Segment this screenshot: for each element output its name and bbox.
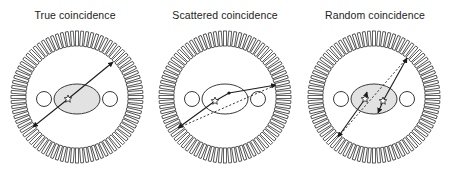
detector-block: [373, 148, 376, 163]
detector-block: [11, 90, 26, 94]
detector-block: [377, 148, 381, 163]
detector-block: [224, 148, 227, 163]
detector-block: [11, 96, 26, 99]
detector-block: [159, 90, 174, 94]
detector-block: [308, 90, 323, 94]
detector-block: [76, 31, 79, 46]
detector-block: [159, 100, 174, 104]
patient-body: [54, 84, 100, 114]
detector-block: [218, 31, 222, 46]
detector-block: [128, 96, 143, 99]
detector-block: [276, 90, 291, 94]
patient-arm-left: [37, 92, 52, 107]
detector-block: [276, 100, 291, 104]
patient-body: [202, 84, 248, 114]
detector-block: [159, 96, 174, 99]
detector-block: [11, 100, 26, 104]
scatter-point: [227, 91, 230, 94]
detector-block: [276, 96, 291, 99]
detector-block: [128, 100, 143, 104]
detector-block: [373, 31, 376, 46]
detector-block: [308, 100, 323, 104]
detector-block: [367, 148, 371, 163]
detector-block: [308, 96, 323, 99]
patient-arm-left: [185, 92, 200, 107]
detector-block: [76, 148, 79, 163]
pet-coincidence-diagram: [0, 0, 450, 183]
detector-block: [228, 148, 232, 163]
patient-arm-right: [103, 92, 118, 107]
detector-block: [425, 90, 440, 94]
detector-block: [218, 148, 222, 163]
detector-block: [377, 31, 381, 46]
detector-block: [70, 148, 74, 163]
detector-block: [70, 31, 74, 46]
patient-arm-right: [251, 92, 266, 107]
detector-block: [128, 90, 143, 94]
detector-block: [80, 31, 84, 46]
detector-block: [425, 100, 440, 104]
detector-block: [425, 96, 440, 99]
detector-block: [224, 31, 227, 46]
detector-block: [367, 31, 371, 46]
patient-arm-right: [400, 92, 415, 107]
detector-block: [228, 31, 232, 46]
patient-arm-left: [334, 92, 349, 107]
detector-block: [80, 148, 84, 163]
